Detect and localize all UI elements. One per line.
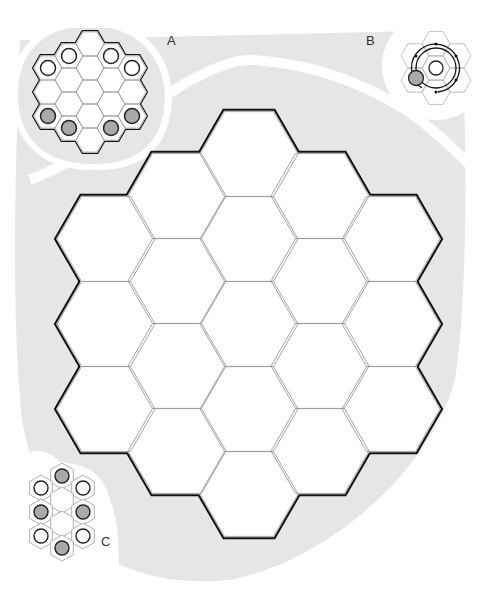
path-node (455, 79, 458, 82)
path-node (415, 55, 418, 58)
gray-stone (55, 541, 69, 555)
label-a: A (167, 34, 176, 47)
path-node (455, 55, 458, 58)
gray-stone (41, 109, 56, 124)
gray-stone (125, 109, 140, 124)
gray-stone (409, 71, 424, 86)
game-board-diagram (0, 0, 494, 597)
white-stone (76, 529, 90, 543)
diagram-c-pattern (30, 463, 95, 561)
white-stone (104, 49, 119, 64)
path-node (435, 91, 438, 94)
gray-stone (34, 505, 48, 519)
gray-stone (55, 469, 69, 483)
white-stone (76, 481, 90, 495)
path-node (435, 43, 438, 46)
label-b: B (366, 34, 375, 47)
white-stone (62, 49, 77, 64)
gray-stone (76, 505, 90, 519)
hex-cell-fill (118, 80, 146, 104)
white-stone (125, 61, 140, 76)
top-margin (0, 0, 494, 28)
white-stone (34, 529, 48, 543)
gray-stone (104, 121, 119, 136)
gray-stone (62, 121, 77, 136)
white-stone (41, 61, 56, 76)
label-c: C (101, 535, 110, 548)
white-stone (34, 481, 48, 495)
white-stone (429, 61, 443, 75)
